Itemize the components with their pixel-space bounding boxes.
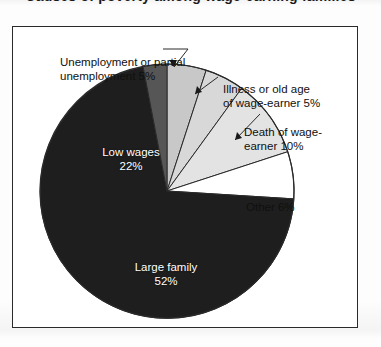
chart-frame: Unemployment or partial unemployment 5% … [12,26,358,328]
callout-label-unemployment: Unemployment or partial unemployment 5% [60,56,185,83]
slice-label-large-family: Large family 52% [111,260,221,288]
slice-label-other: Other 6% [246,201,295,213]
slice-label-low-wages: Low wages 22% [81,145,181,173]
chart-title-cropped: Causes of poverty among wage-earning fam… [0,0,381,9]
callout-label-illness: Illness or old age of wage-earner 5% [223,83,320,110]
chart-title-text: Causes of poverty among wage-earning fam… [0,0,381,4]
callout-label-death: Death of wage- earner 10% [244,126,322,153]
